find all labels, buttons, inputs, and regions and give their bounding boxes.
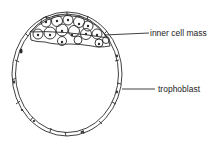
trophoblast-label: trophoblast	[158, 84, 200, 94]
trophoblast-layer	[12, 12, 122, 136]
inner-cell-mass-label: inner cell mass	[150, 28, 207, 38]
blastocyst-diagram	[0, 0, 221, 151]
inner-cell-mass	[30, 14, 110, 47]
inner-cell-mass-leader-line	[104, 33, 149, 35]
